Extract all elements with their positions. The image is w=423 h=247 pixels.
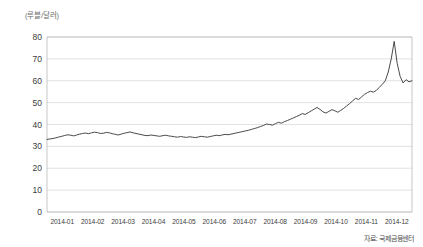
source-note: 자료: 국제금융센터 — [364, 233, 414, 243]
y-axis-tick-label: 0 — [16, 207, 42, 217]
y-axis-tick-label: 70 — [16, 54, 42, 64]
y-axis-tick-label: 60 — [16, 76, 42, 86]
chart-container: (루블/달러) 01020304050607080 2014-012014-02… — [0, 0, 423, 247]
y-axis-tick-label: 10 — [16, 185, 42, 195]
y-axis-tick-label: 50 — [16, 98, 42, 108]
y-axis-tick-label: 40 — [16, 120, 42, 130]
x-axis-tick-label: 2014-12 — [374, 218, 420, 225]
y-axis-tick-label: 20 — [16, 163, 42, 173]
y-axis-tick-label: 30 — [16, 141, 42, 151]
y-axis-tick-label: 80 — [16, 32, 42, 42]
line-chart-plot — [0, 0, 423, 247]
